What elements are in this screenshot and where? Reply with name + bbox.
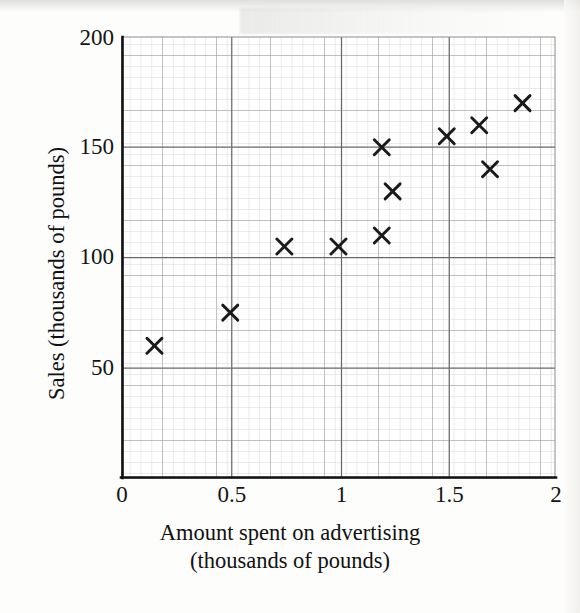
x-axis-title-line2: (thousands of pounds) <box>0 547 580 575</box>
y-tick-label-50: 50 <box>91 355 114 381</box>
y-tick-label-100: 100 <box>80 244 115 270</box>
x-tick-label-1-5: 1.5 <box>435 482 464 508</box>
y-tick-label-150: 150 <box>80 134 115 160</box>
x-tick-label-1: 1 <box>336 482 348 508</box>
plot-grid <box>122 37 555 478</box>
x-tick-label-2: 2 <box>550 482 562 508</box>
x-axis-title: Amount spent on advertising (thousands o… <box>0 519 580 575</box>
x-tick-label-0-5: 0.5 <box>217 482 246 508</box>
y-tick-label-200: 200 <box>80 25 115 51</box>
x-axis-title-line1: Amount spent on advertising <box>160 520 421 545</box>
scatter-plot: 0 0.5 1 1.5 2 50 100 150 200 Amount spen… <box>0 0 580 613</box>
x-tick-label-0: 0 <box>116 482 128 508</box>
y-axis-title: Sales (thousands of pounds) <box>44 147 70 400</box>
